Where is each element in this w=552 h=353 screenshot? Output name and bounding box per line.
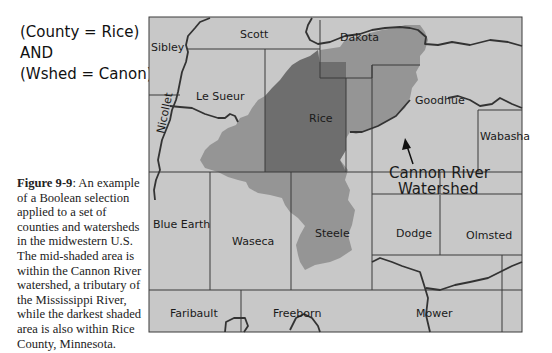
county-watershed-map: Scott Dakota Sibley Nicollet Le Sueur Ri… — [0, 0, 552, 353]
county-label-dakota: Dakota — [340, 31, 379, 44]
county-label-scott: Scott — [240, 28, 269, 41]
county-label-wabasha: Wabasha — [480, 130, 530, 143]
county-label-waseca: Waseca — [232, 235, 274, 248]
county-label-mower: Mower — [416, 307, 453, 320]
county-label-freeborn: Freeborn — [273, 307, 321, 320]
county-label-goodhue: Goodhue — [415, 94, 465, 107]
county-label-faribault: Faribault — [170, 307, 218, 320]
county-label-blue-earth: Blue Earth — [153, 218, 210, 231]
county-label-dodge: Dodge — [396, 227, 432, 240]
county-label-olmsted: Olmsted — [466, 229, 512, 242]
county-label-sibley: Sibley — [151, 41, 185, 54]
county-label-le-sueur: Le Sueur — [196, 90, 245, 103]
county-label-rice: Rice — [309, 112, 333, 125]
county-label-steele: Steele — [315, 227, 350, 240]
watershed-annotation-line2: Watershed — [398, 180, 478, 198]
